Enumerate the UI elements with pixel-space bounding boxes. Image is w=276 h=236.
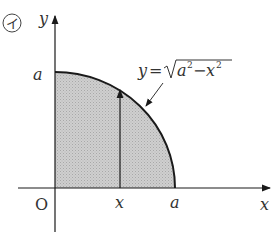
quarter-circle-area-diagram: イ y x O a x a y = a 2 − x 2 — [0, 0, 276, 236]
y-tick-a: a — [33, 65, 43, 84]
x-tick-a: a — [170, 193, 180, 212]
svg-text:=: = — [149, 61, 162, 80]
svg-text:2: 2 — [187, 60, 193, 70]
svg-text:x: x — [206, 61, 215, 80]
svg-text:−: − — [193, 61, 206, 80]
svg-text:2: 2 — [216, 60, 222, 70]
origin-label: O — [35, 195, 48, 214]
x-axis-label: x — [260, 195, 269, 214]
label-leader-arrow — [146, 83, 163, 106]
problem-marker: イ — [6, 16, 19, 31]
svg-text:a: a — [177, 61, 187, 80]
x-tick-x: x — [115, 193, 124, 212]
svg-text:y: y — [137, 61, 148, 80]
y-axis-label: y — [38, 9, 49, 28]
shaded-region — [55, 72, 175, 188]
curve-equation-label: y = a 2 − x 2 — [137, 60, 232, 80]
